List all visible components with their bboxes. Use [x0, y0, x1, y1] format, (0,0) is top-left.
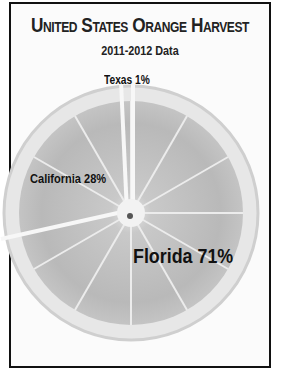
- label-california: California 28%: [30, 171, 106, 186]
- orange-center: [117, 199, 145, 227]
- orange-pie-chart: [0, 0, 273, 372]
- label-florida: Florida 71%: [133, 244, 233, 268]
- label-texas: Texas 1%: [104, 73, 150, 87]
